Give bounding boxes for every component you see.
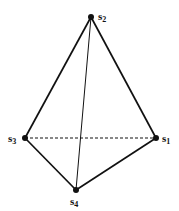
edge-s3-s4: [25, 138, 76, 190]
vertex-label-s1: s1: [162, 132, 170, 146]
vertex-dot-s3: [22, 135, 28, 141]
edge-s4-s1: [76, 138, 156, 190]
vertex-label-s4: s4: [70, 195, 78, 209]
edge-s2-s4: [76, 17, 91, 190]
edge-s2-s1: [91, 17, 156, 138]
vertex-label-s3: s3: [8, 132, 16, 146]
vertex-dot-s1: [153, 135, 159, 141]
vertex-dot-s2: [88, 14, 94, 20]
edge-s2-s3: [25, 17, 91, 138]
vertex-dot-s4: [73, 187, 79, 193]
vertex-dots: [22, 14, 159, 193]
tetrahedron-diagram: s1s2s3s4: [0, 0, 179, 211]
edges: [25, 17, 156, 190]
vertex-label-s2: s2: [98, 10, 106, 24]
